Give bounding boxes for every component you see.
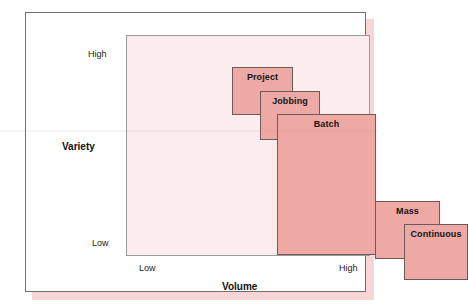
- process-box-batch-label: Batch: [278, 119, 375, 129]
- process-box-continuous: Continuous: [404, 224, 468, 280]
- process-box-mass-label: Mass: [376, 206, 439, 216]
- x-axis-tick-low: Low: [139, 263, 156, 273]
- scan-artifact: [0, 130, 379, 132]
- process-box-jobbing-label: Jobbing: [261, 96, 319, 106]
- y-axis-tick-low: Low: [92, 238, 109, 248]
- x-axis-tick-high: High: [339, 263, 358, 273]
- y-axis-tick-high: High: [88, 49, 107, 59]
- plot-area: Project Jobbing Batch Mass Continuous: [126, 35, 370, 256]
- diagram-frame: Variety High Low Low High Volume Project…: [25, 12, 366, 292]
- process-box-continuous-label: Continuous: [405, 229, 467, 239]
- x-axis-title: Volume: [222, 281, 257, 292]
- y-axis-title: Variety: [62, 141, 95, 152]
- process-box-project-label: Project: [233, 72, 292, 82]
- process-box-batch: Batch: [277, 114, 376, 255]
